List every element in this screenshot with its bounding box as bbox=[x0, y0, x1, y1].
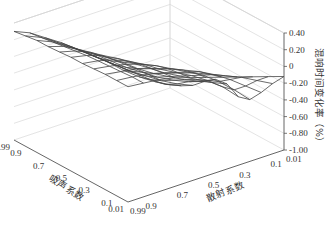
z-tick-label: -0.80 bbox=[289, 128, 308, 138]
legend-text: -0.80 ~ -0.60 -0.60 ~ -0.40 -0.40 ~ -0.2… bbox=[0, 224, 255, 226]
z-tick-label: -0.40 bbox=[289, 95, 308, 105]
z-tick-label: -0.60 bbox=[289, 112, 308, 122]
mesh-line bbox=[71, 57, 82, 63]
mesh-line bbox=[154, 82, 165, 85]
mesh-line bbox=[230, 77, 241, 79]
y-axis-ticks: 0.990.90.70.50.30.10.01 bbox=[130, 154, 302, 216]
wall-gridline bbox=[170, 0, 284, 33]
mesh-line bbox=[193, 82, 204, 86]
mesh-line bbox=[166, 84, 177, 85]
mesh-line bbox=[250, 93, 261, 100]
mesh-line bbox=[105, 74, 116, 80]
wall-gridline bbox=[170, 71, 284, 133]
mesh-line bbox=[60, 51, 76, 52]
wall-gridline bbox=[14, 0, 170, 23]
wall-edge bbox=[14, 0, 170, 23]
mesh-line bbox=[180, 76, 191, 77]
mesh-line bbox=[87, 56, 98, 61]
x-tick-label: 0.01 bbox=[108, 204, 124, 214]
mesh-line bbox=[160, 69, 171, 70]
mesh-line bbox=[246, 81, 257, 87]
mesh-line bbox=[173, 80, 184, 81]
mesh-line bbox=[94, 69, 105, 74]
mesh-line bbox=[187, 72, 198, 73]
wall-gridline bbox=[14, 88, 170, 140]
wall-edge bbox=[170, 0, 284, 33]
wall-gridline bbox=[14, 4, 170, 56]
mesh-line bbox=[156, 66, 167, 69]
x-tick-label: 0.7 bbox=[33, 161, 45, 171]
mesh-line bbox=[117, 77, 133, 81]
mesh-line bbox=[153, 73, 164, 74]
mesh-line bbox=[241, 77, 257, 80]
mesh-line bbox=[128, 83, 144, 87]
wall-gridline bbox=[170, 88, 284, 150]
mesh-line bbox=[170, 85, 181, 86]
mesh-line bbox=[203, 75, 214, 76]
mesh-line bbox=[246, 86, 262, 93]
z-tick-label: 0.40 bbox=[289, 28, 305, 38]
wall-gridline bbox=[170, 21, 284, 83]
mesh-line bbox=[257, 81, 273, 84]
mesh-line bbox=[138, 68, 149, 69]
z-axis-title: 混响时间变化率（%） bbox=[314, 48, 325, 147]
z-tick-label: 0.20 bbox=[289, 45, 305, 55]
mesh-line bbox=[241, 77, 252, 78]
mesh-line bbox=[82, 61, 98, 64]
wall-gridline bbox=[14, 0, 170, 40]
mesh-line bbox=[176, 72, 187, 73]
mesh-line bbox=[169, 76, 180, 77]
mesh-line bbox=[162, 80, 173, 81]
z-axis-ticks: 0.400.200-0.20-0.40-0.60-0.80-1.00 bbox=[284, 28, 308, 155]
x-tick-label: 0.9 bbox=[10, 148, 22, 158]
wall-gridline bbox=[170, 0, 284, 50]
mesh-line bbox=[94, 66, 110, 69]
wall-gridline bbox=[170, 38, 284, 100]
z-tick-label: 0 bbox=[289, 61, 294, 71]
mesh-line bbox=[71, 56, 87, 58]
y-tick-label: 0.1 bbox=[270, 159, 281, 169]
y-tick-label: 0.9 bbox=[146, 201, 158, 211]
mesh-line bbox=[48, 47, 59, 52]
mesh-line bbox=[109, 66, 120, 71]
y-tick-label: 0.01 bbox=[286, 154, 302, 164]
mesh-line bbox=[192, 75, 203, 76]
mesh-line bbox=[177, 82, 188, 84]
mesh-line bbox=[257, 77, 268, 81]
y-tick-label: 0.7 bbox=[177, 190, 189, 200]
wall-gridline bbox=[14, 55, 170, 107]
mesh-line bbox=[189, 81, 200, 82]
surface-mesh bbox=[14, 31, 284, 99]
y-tick-label: 0.99 bbox=[130, 206, 146, 216]
wall-gridline bbox=[170, 4, 284, 66]
mesh-line bbox=[117, 81, 128, 87]
mesh-line bbox=[230, 80, 246, 87]
x-tick-label: 0.99 bbox=[0, 142, 11, 152]
z-tick-label: -0.20 bbox=[289, 78, 308, 88]
mesh-line bbox=[157, 77, 168, 78]
surface-chart: 0.400.200-0.20-0.40-0.60-0.80-1.00 0.990… bbox=[0, 0, 327, 226]
mesh-line bbox=[234, 86, 245, 90]
